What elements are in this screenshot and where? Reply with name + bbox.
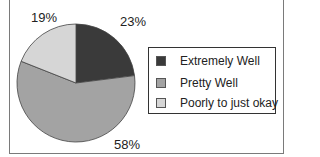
legend-item-pretty-well: Pretty Well: [156, 76, 238, 90]
legend-swatch-icon: [156, 78, 166, 88]
legend-item-poorly: Poorly to just okay: [156, 96, 278, 110]
legend-label: Poorly to just okay: [180, 96, 278, 110]
slice-label-pretty-well: 58%: [114, 137, 140, 152]
legend-swatch-icon: [156, 56, 166, 66]
slice-label-extremely-well: 23%: [120, 14, 146, 29]
pie-slice: [76, 24, 135, 83]
legend: Extremely Well Pretty Well Poorly to jus…: [148, 47, 276, 114]
legend-swatch-icon: [156, 98, 166, 108]
legend-label: Extremely Well: [180, 54, 260, 68]
legend-label: Pretty Well: [180, 76, 238, 90]
slice-label-poorly: 19%: [31, 10, 57, 25]
legend-item-extremely-well: Extremely Well: [156, 54, 260, 68]
